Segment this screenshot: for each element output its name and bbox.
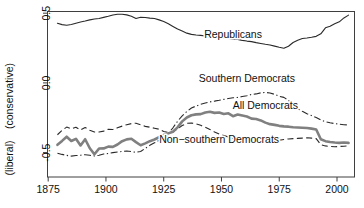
x-tick-label: 2000 <box>325 183 349 195</box>
y-axis-label-liberal: (liberal) <box>3 140 15 175</box>
chart-container: 0.50.0-0.5 187519001925195019752000 Repu… <box>0 0 364 208</box>
x-tick-label: 1900 <box>94 183 118 195</box>
x-tick-label: 1875 <box>37 183 61 195</box>
y-tick-label: 0.5 <box>40 6 52 21</box>
series-label-all-democrats: All Democrats <box>233 99 298 111</box>
series-label-republicans: Republicans <box>204 28 262 40</box>
y-tick-label: -0.5 <box>40 143 52 161</box>
y-tick-label: 0.0 <box>40 75 52 90</box>
y-axis-label-conservative: (conservative) <box>3 63 15 129</box>
axis-titles: (conservative) (liberal) <box>3 63 15 175</box>
x-tick-label: 1950 <box>210 183 234 195</box>
x-tick-label: 1975 <box>268 183 292 195</box>
x-tick-label: 1925 <box>152 183 176 195</box>
series-label-southern-democrats: Southern Democrats <box>199 72 295 84</box>
line-chart: 0.50.0-0.5 187519001925195019752000 Repu… <box>0 0 364 208</box>
series-label-non-southern-democrats: Non−southern Democrats <box>159 133 279 145</box>
